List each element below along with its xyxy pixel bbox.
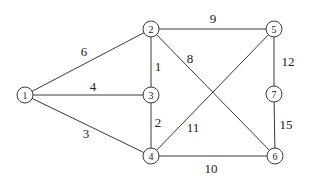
edge-1-2: [25, 29, 151, 95]
node-label: 3: [149, 90, 154, 101]
node-1: 1: [17, 87, 33, 103]
edge-weight-1-3: 4: [90, 79, 97, 94]
edge-weight-1-2: 6: [81, 44, 88, 59]
node-3: 3: [143, 87, 159, 103]
weight-labels-layer: 643918211101215: [81, 11, 295, 176]
edge-weight-2-3: 1: [155, 59, 162, 74]
node-label: 4: [149, 151, 154, 162]
node-label: 1: [23, 90, 28, 101]
edge-7-6: [274, 94, 275, 156]
edge-weight-1-4: 3: [83, 126, 90, 141]
node-label: 6: [273, 151, 278, 162]
node-7: 7: [266, 86, 282, 102]
edge-weight-4-6: 10: [205, 161, 218, 176]
edge-weight-7-6: 15: [280, 117, 293, 132]
node-label: 7: [272, 89, 277, 100]
node-2: 2: [143, 21, 159, 37]
edge-weight-5-7: 12: [282, 54, 295, 69]
node-4: 4: [143, 148, 159, 164]
edge-weight-4-5: 11: [187, 120, 200, 135]
node-6: 6: [267, 148, 283, 164]
node-label: 2: [149, 24, 154, 35]
edge-weight-3-4: 2: [155, 115, 162, 130]
node-label: 5: [272, 24, 277, 35]
edge-weight-2-6: 8: [187, 51, 194, 66]
edge-weight-2-5: 9: [210, 11, 217, 26]
nodes-layer: 1234567: [17, 21, 283, 164]
node-5: 5: [266, 21, 282, 37]
graph-diagram: 643918211101215 1234567: [0, 0, 309, 182]
